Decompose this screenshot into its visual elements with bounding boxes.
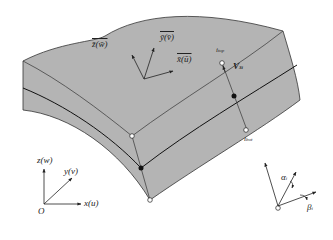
global-y-axis-label: y(v)	[64, 167, 78, 176]
local-z-axis-label: z̄(w̄)	[92, 40, 108, 49]
alpha-rotation-label: αi	[281, 173, 287, 182]
bottom-node-label: ibot	[244, 136, 252, 143]
corner-bottom-node	[148, 198, 153, 203]
global-x-axis-label: x(u)	[84, 199, 99, 208]
director-top-node	[220, 61, 225, 66]
local-y-axis-label: ȳ(v̄)	[160, 33, 174, 42]
corner-mid-node	[139, 166, 144, 171]
top-node-label: itop	[216, 47, 224, 54]
local-x-axis-label: x̄(ū)	[177, 55, 192, 64]
corner-top-node	[130, 134, 135, 139]
director-mid-node	[232, 94, 237, 99]
beta-rotation-label: βi	[307, 203, 313, 212]
global-z-axis-label: z(w)	[37, 156, 53, 165]
director-vector-label: V3i	[233, 62, 243, 71]
origin-label: O	[38, 207, 45, 216]
director-bottom-node	[244, 128, 249, 133]
